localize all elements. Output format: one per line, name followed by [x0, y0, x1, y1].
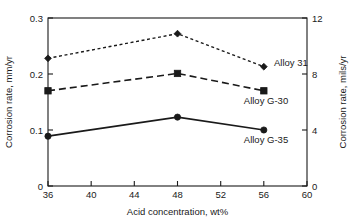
data-point-marker [174, 114, 180, 120]
series-line-alloy-g35 [48, 117, 264, 136]
x-tick-label-52: 52 [215, 189, 226, 200]
series-line-alloy-31 [48, 34, 264, 67]
y-axis-right-title: Corrosion rate, mils/yr [337, 56, 348, 149]
series-markers-alloy-g35 [45, 114, 267, 139]
data-point-marker [261, 88, 267, 94]
x-tick-label-44: 44 [129, 189, 140, 200]
x-axis-ticks [48, 181, 307, 186]
data-point-marker [45, 133, 51, 139]
series-alloy-31 [45, 30, 268, 70]
y-right-tick-label-2: 8 [312, 69, 317, 80]
data-point-marker [45, 55, 52, 62]
x-tick-label-48: 48 [172, 189, 183, 200]
data-point-marker [45, 88, 51, 94]
data-point-marker [260, 63, 267, 70]
series-line-alloy-g30 [48, 73, 264, 90]
y-axis-left-title: Corrosion rate, mm/yr [3, 56, 14, 148]
data-point-marker [261, 127, 267, 133]
x-tick-label-60: 60 [302, 189, 313, 200]
y-right-tick-label-0: 0 [312, 181, 317, 192]
y-right-tick-label-1: 4 [312, 125, 317, 136]
series-alloy-g35 [45, 114, 267, 139]
chart-canvas: 0 0.1 0.2 0.3 0 4 8 12 36 40 44 48 52 5 [0, 0, 357, 223]
x-axis-title: Acid concentration, wt% [127, 206, 229, 217]
series-label-alloy-g35: Alloy G-35 [244, 134, 288, 145]
y-left-tick-label-2: 0.2 [30, 69, 43, 80]
x-tick-label-56: 56 [259, 189, 270, 200]
data-point-marker [174, 30, 181, 37]
y-left-tick-label-3: 0.3 [30, 13, 43, 24]
y-right-tick-label-3: 12 [312, 13, 323, 24]
corrosion-rate-line-chart: 0 0.1 0.2 0.3 0 4 8 12 36 40 44 48 52 5 [0, 0, 357, 223]
x-tick-label-36: 36 [43, 189, 54, 200]
series-label-alloy-g30: Alloy G-30 [244, 95, 288, 106]
series-markers-alloy-31 [45, 30, 268, 70]
data-point-marker [174, 70, 180, 76]
series-label-alloy-31: Alloy 31 [274, 57, 308, 68]
y-left-tick-label-1: 0.1 [30, 125, 43, 136]
y-axis-right-ticks [302, 18, 307, 186]
series-markers-alloy-g30 [45, 70, 267, 94]
x-tick-label-40: 40 [86, 189, 97, 200]
y-axis-left-ticks [48, 18, 53, 186]
series-alloy-g30 [45, 70, 267, 94]
